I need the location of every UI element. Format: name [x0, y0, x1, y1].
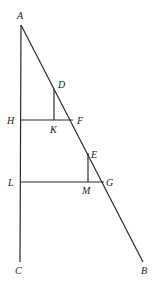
segment-ac	[20, 25, 21, 262]
geometry-diagram: A D H F K E L M G C B	[0, 0, 156, 284]
label-g: G	[106, 177, 113, 188]
label-l: L	[7, 177, 14, 188]
label-b: B	[141, 265, 147, 276]
label-c: C	[15, 265, 22, 276]
label-k: K	[49, 124, 58, 135]
label-a: A	[16, 10, 24, 21]
label-e: E	[90, 149, 97, 160]
segment-ab	[21, 25, 143, 262]
label-d: D	[57, 79, 66, 90]
label-f: F	[76, 115, 84, 126]
label-m: M	[81, 185, 91, 196]
label-h: H	[6, 115, 15, 126]
